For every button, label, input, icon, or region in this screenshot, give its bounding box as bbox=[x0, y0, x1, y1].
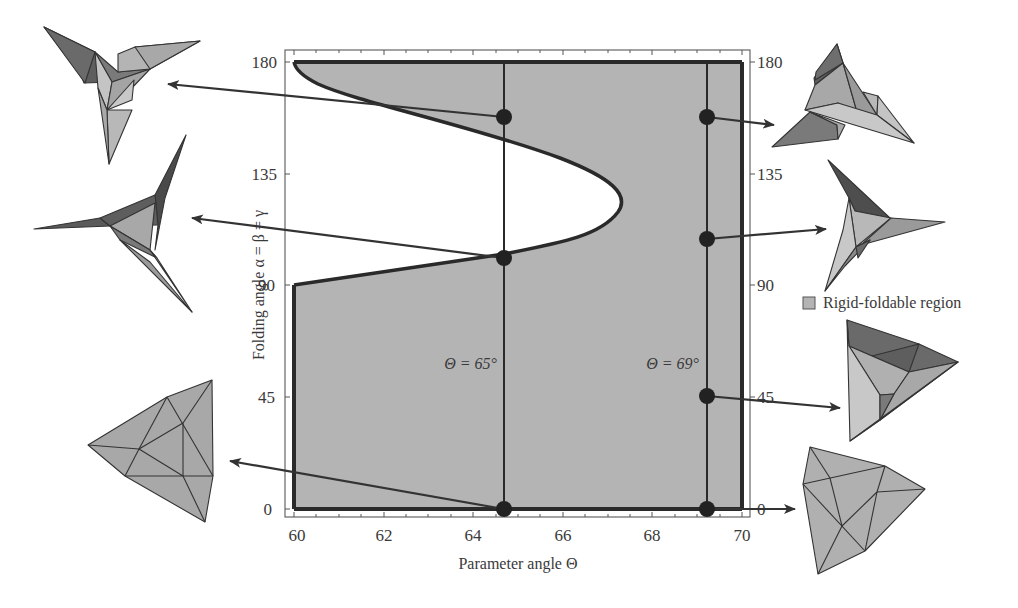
origami-inset-69-45 bbox=[847, 320, 958, 441]
annotation-theta-65: Θ = 65° bbox=[444, 355, 497, 372]
y-tick-right-45: 45 bbox=[757, 388, 774, 407]
y-tick-right-90: 90 bbox=[757, 276, 774, 295]
point-69-109 bbox=[699, 231, 715, 247]
legend-swatch bbox=[803, 297, 815, 309]
x-tick-labels: 60 62 64 66 68 70 bbox=[289, 526, 751, 545]
plot-area: Θ = 65° Θ = 69° 60 62 64 66 bbox=[250, 50, 783, 573]
point-65-0 bbox=[496, 501, 512, 517]
y-tick-right-180: 180 bbox=[757, 53, 783, 72]
y-tick-45: 45 bbox=[258, 388, 275, 407]
annotation-theta-69: Θ = 69° bbox=[646, 355, 699, 372]
x-tick-62: 62 bbox=[376, 526, 393, 545]
x-tick-66: 66 bbox=[555, 526, 572, 545]
y-tick-0: 0 bbox=[264, 500, 273, 519]
figure-canvas: Θ = 65° Θ = 69° 60 62 64 66 bbox=[0, 0, 1018, 608]
point-65-158 bbox=[496, 109, 512, 125]
origami-inset-69-109 bbox=[825, 160, 945, 291]
origami-inset-65-0 bbox=[88, 380, 213, 522]
origami-inset-65-101 bbox=[34, 135, 192, 312]
x-axis-title: Parameter angle Θ bbox=[458, 555, 577, 573]
point-69-0 bbox=[699, 501, 715, 517]
y-axis-title: Folding angle α = β = γ bbox=[250, 210, 268, 360]
origami-inset-65-158 bbox=[44, 27, 200, 164]
legend-label: Rigid-foldable region bbox=[823, 294, 961, 312]
y-tick-right-135: 135 bbox=[757, 165, 783, 184]
point-69-158 bbox=[699, 109, 715, 125]
origami-inset-69-158 bbox=[772, 44, 914, 147]
x-tick-70: 70 bbox=[734, 526, 751, 545]
y-tick-135: 135 bbox=[252, 165, 278, 184]
point-65-101 bbox=[496, 250, 512, 266]
point-69-45 bbox=[699, 388, 715, 404]
y-tick-180: 180 bbox=[252, 53, 278, 72]
legend: Rigid-foldable region bbox=[803, 294, 961, 312]
x-tick-68: 68 bbox=[644, 526, 661, 545]
x-tick-60: 60 bbox=[289, 526, 306, 545]
x-tick-64: 64 bbox=[465, 526, 483, 545]
origami-inset-69-0 bbox=[803, 447, 925, 574]
